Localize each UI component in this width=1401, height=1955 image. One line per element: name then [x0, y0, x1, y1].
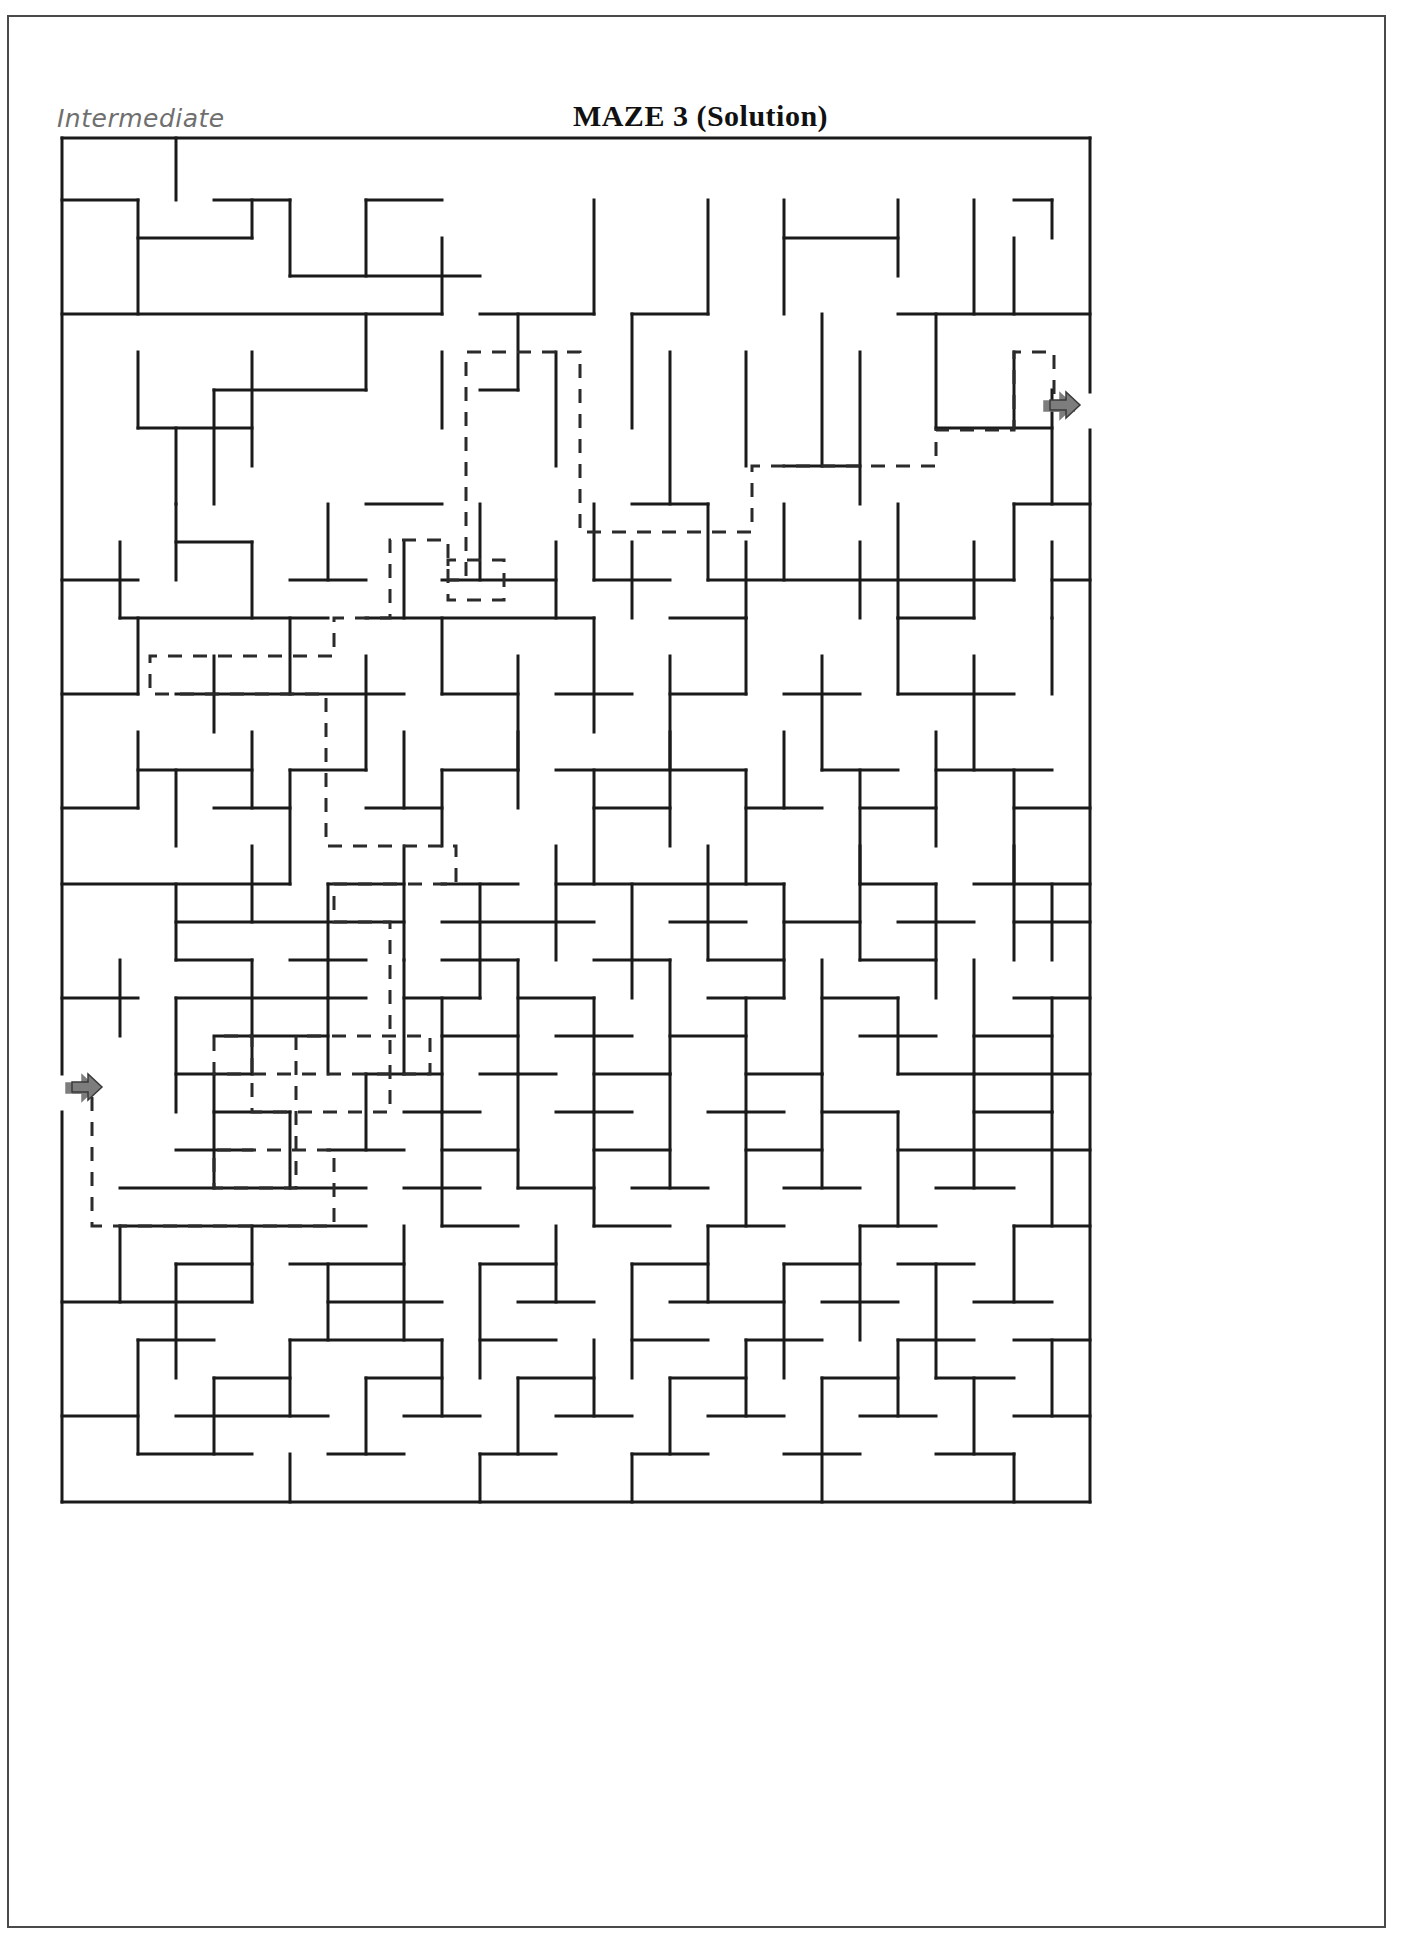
entry-arrow-icon: [66, 1074, 102, 1101]
maze-canvas: [0, 0, 1401, 1955]
maze-page: Intermediate MAZE 3 (Solution): [0, 0, 1401, 1955]
maze-vertical-walls: [120, 138, 1052, 1502]
exit-arrow-icon: [1044, 392, 1080, 419]
maze-svg: [0, 0, 1401, 1955]
solution-path: [72, 352, 1075, 1226]
